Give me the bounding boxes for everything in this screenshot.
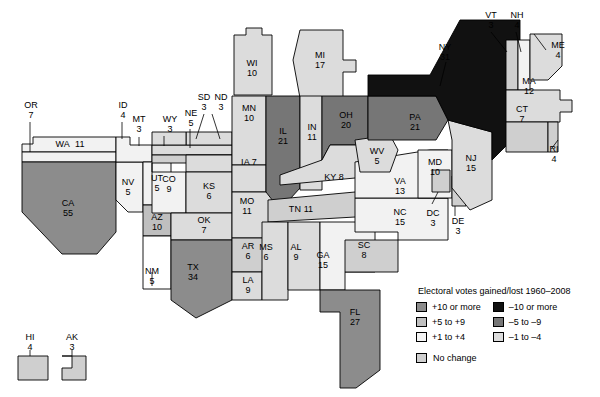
legend-item-gain1[interactable]: +1 to +4 (416, 332, 481, 342)
state-shape-MN[interactable] (232, 96, 266, 165)
state-shape-IL[interactable] (266, 96, 300, 210)
state-shape-AL[interactable] (288, 222, 320, 290)
state-shape-WV[interactable] (355, 135, 398, 172)
legend-swatch-gain10 (416, 302, 427, 312)
legend-label-nochange: No change (433, 353, 477, 363)
state-shape-SC[interactable] (345, 240, 398, 272)
state-shape-WI[interactable] (234, 28, 272, 95)
state-shape-NM[interactable] (143, 236, 171, 289)
legend-item-nochange[interactable]: No change (416, 353, 596, 363)
legend-label-gain10: +10 or more (432, 302, 481, 312)
electoral-cartogram-map: OR7 ID4 MT3 WY3 NE5 SD3 ND3 WA 11 NV5 UT… (0, 0, 600, 397)
legend-label-loss10: –10 or more (509, 302, 558, 312)
legend-item-gain5[interactable]: +5 to +9 (416, 317, 481, 327)
map-legend: Electoral votes gained/lost 1960–2008 +1… (416, 286, 596, 363)
state-shape-IA[interactable] (232, 165, 266, 192)
legend-swatch-nochange (416, 353, 427, 363)
state-shape-WA[interactable] (22, 137, 116, 152)
state-shape-MA[interactable] (506, 90, 572, 122)
legend-column-nochange: No change (416, 353, 596, 363)
legend-title: Electoral votes gained/lost 1960–2008 (418, 286, 596, 296)
state-shape-RI[interactable] (548, 122, 558, 152)
state-shape-CT[interactable] (506, 122, 548, 152)
legend-swatch-gain1 (416, 332, 427, 342)
legend-swatch-loss5 (493, 317, 504, 327)
state-shape-TX[interactable] (171, 240, 232, 318)
state-shape-FL[interactable] (320, 290, 380, 388)
state-shape-OK[interactable] (171, 213, 232, 240)
legend-swatch-loss1 (493, 332, 504, 342)
state-shape-MI[interactable] (293, 30, 356, 98)
legend-item-loss5[interactable]: –5 to –9 (493, 317, 558, 327)
state-shape-MS[interactable] (262, 222, 288, 300)
state-shape-AK[interactable] (62, 356, 86, 380)
state-shape-DC[interactable] (432, 170, 450, 192)
legend-label-gain1: +1 to +4 (432, 332, 465, 342)
legend-item-loss1[interactable]: –1 to –4 (493, 332, 558, 342)
state-shape-SD[interactable] (152, 132, 186, 145)
state-shape-VT[interactable] (506, 40, 518, 90)
state-shape-CA[interactable] (22, 162, 116, 254)
legend-column-losses: –10 or more –5 to –9 –1 to –4 (493, 302, 558, 342)
legend-column-gains: +10 or more +5 to +9 +1 to +4 (416, 302, 481, 342)
legend-swatch-loss10 (493, 302, 504, 312)
state-shape-HI[interactable] (18, 356, 48, 380)
state-shape-ME[interactable] (530, 34, 562, 80)
legend-swatch-gain5 (416, 317, 427, 327)
state-shape-MT[interactable] (152, 145, 232, 155)
state-shape-PA[interactable] (368, 96, 448, 140)
legend-label-gain5: +5 to +9 (432, 317, 465, 327)
state-shape-ID[interactable] (116, 137, 152, 162)
legend-label-loss5: –5 to –9 (509, 317, 542, 327)
state-shape-LA[interactable] (232, 272, 262, 300)
state-shape-NE[interactable] (186, 155, 232, 172)
legend-item-gain10[interactable]: +10 or more (416, 302, 481, 312)
legend-item-loss10[interactable]: –10 or more (493, 302, 558, 312)
legend-label-loss1: –1 to –4 (509, 332, 542, 342)
state-shape-NV[interactable] (116, 162, 143, 212)
state-shape-KS[interactable] (186, 172, 232, 213)
state-shape-ND[interactable] (186, 132, 232, 145)
state-shape-OR[interactable] (22, 152, 116, 162)
